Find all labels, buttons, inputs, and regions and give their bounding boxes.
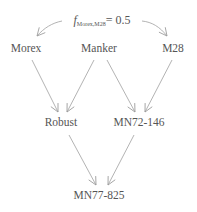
edge-mn72-mn77 (108, 135, 134, 185)
node-mn72-146: MN72-146 (113, 116, 164, 128)
node-m28: M28 (162, 42, 184, 54)
kinship-subscript: Morex,M28 (77, 21, 106, 27)
node-mn77-825: MN77-825 (73, 189, 124, 201)
node-morex: Morex (11, 42, 42, 54)
edge-manker-mn72 (107, 60, 135, 112)
kinship-value: = 0.5 (106, 13, 131, 27)
edge-kinship-to-m28 (142, 21, 167, 36)
node-robust: Robust (45, 116, 78, 128)
kinship-annotation: fMorex,M28= 0.5 (74, 13, 131, 28)
edge-m28-mn72 (145, 60, 172, 112)
edge-kinship-to-morex (37, 21, 62, 36)
edge-robust-mn77 (69, 135, 96, 185)
edge-manker-robust (67, 60, 94, 112)
pedigree-edges (0, 0, 197, 212)
edge-morex-robust (32, 60, 58, 112)
node-manker: Manker (81, 42, 117, 54)
